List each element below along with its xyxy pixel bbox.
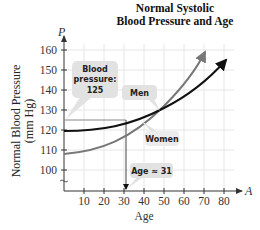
svg-text:Blood: Blood	[82, 65, 108, 74]
y-tick-160: 160	[40, 44, 58, 56]
x-tick-60: 60	[178, 195, 190, 207]
x-axis-label: Age	[134, 210, 153, 223]
x-tick-20: 20	[98, 195, 110, 207]
y-tick-120: 120	[40, 124, 58, 136]
svg-text:pressure:: pressure:	[74, 75, 117, 84]
x-tick-50: 50	[158, 195, 170, 207]
callout-age: Age ≈ 31	[127, 163, 173, 189]
y-tick-140: 140	[40, 84, 58, 96]
svg-text:125: 125	[87, 86, 104, 95]
y-tick-110: 110	[40, 144, 57, 156]
x-tick-labels: 10 20 30 40 50 60 70 80	[78, 195, 230, 207]
x-tick-80: 80	[218, 195, 230, 207]
chart-plot: 160 150 140 130 120 110 100 10 20 30 40 …	[0, 0, 260, 230]
y-tick-100: 100	[40, 164, 58, 176]
y-axis-variable: P	[57, 25, 66, 39]
x-tick-40: 40	[138, 195, 150, 207]
x-tick-70: 70	[198, 195, 210, 207]
x-tick-10: 10	[78, 195, 90, 207]
svg-text:Age ≈ 31: Age ≈ 31	[131, 167, 172, 176]
svg-text:Men: Men	[130, 89, 149, 98]
x-tick-30: 30	[118, 195, 130, 207]
y-tick-130: 130	[40, 104, 58, 116]
callout-women: Women	[140, 120, 179, 146]
svg-text:Women: Women	[145, 135, 179, 144]
callout-men: Men	[122, 85, 160, 111]
y-tick-150: 150	[40, 64, 58, 76]
y-tick-labels: 160 150 140 130 120 110 100	[40, 44, 58, 176]
x-axis-variable: A	[244, 184, 253, 198]
